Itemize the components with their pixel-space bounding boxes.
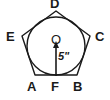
geometry-figure: D E C A F B O 5" bbox=[0, 0, 110, 100]
center-label-o: O bbox=[51, 33, 61, 46]
vertex-label-c: C bbox=[95, 30, 104, 43]
tangent-point-label-f: F bbox=[51, 80, 59, 93]
vertex-label-d: D bbox=[50, 0, 59, 10]
vertex-label-a: A bbox=[27, 80, 36, 93]
apothem-measurement-label: 5" bbox=[58, 51, 69, 62]
vertex-label-e: E bbox=[6, 30, 15, 43]
vertex-label-b: B bbox=[73, 80, 82, 93]
